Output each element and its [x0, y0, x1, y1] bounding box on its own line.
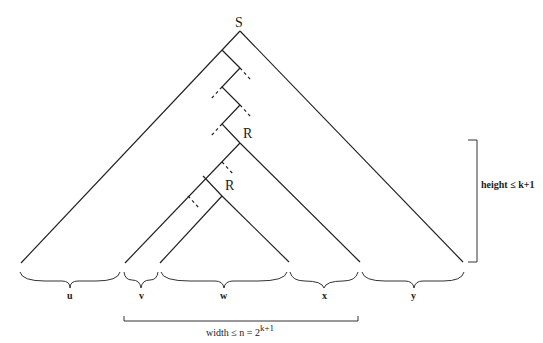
segment-label-w: w	[220, 290, 228, 301]
brace-u	[20, 272, 120, 288]
segment-label-x: x	[322, 290, 327, 301]
brace-y	[362, 272, 464, 288]
node-label-upper-r: R	[243, 126, 253, 141]
width-annotation-exponent: k+1	[260, 323, 274, 333]
node-label-s: S	[235, 15, 243, 30]
segment-label-u: u	[67, 290, 73, 301]
height-bracket	[468, 140, 477, 262]
node-label-lower-r: R	[225, 178, 235, 193]
brace-v	[124, 272, 158, 288]
brace-w	[161, 272, 287, 288]
segment-label-v: v	[139, 290, 144, 301]
width-annotation: width ≤ n = 2k+1	[206, 323, 274, 338]
parse-tree-diagram: S R R u v w x y height ≤ k+1 width ≤ n =…	[0, 0, 543, 343]
segment-label-y: y	[411, 290, 416, 301]
upper-r-subtree	[125, 143, 360, 263]
height-annotation: height ≤ k+1	[481, 179, 534, 190]
width-annotation-base: width ≤ n = 2	[206, 327, 260, 338]
brace-x	[290, 272, 358, 288]
outer-tree-s	[21, 31, 463, 263]
width-bracket	[124, 316, 358, 321]
